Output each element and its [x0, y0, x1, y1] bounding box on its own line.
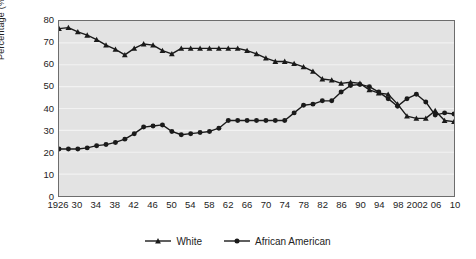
circle-marker-icon [224, 236, 250, 246]
series-african-american [59, 82, 454, 151]
y-axis-tick-labels: 01020304050607080 [28, 0, 54, 259]
y-tick-label: 60 [30, 59, 54, 69]
y-axis-title: Percentage (%) [0, 0, 6, 60]
y-tick-label: 20 [30, 148, 54, 158]
x-axis-tick-labels: 1926303438424650545862667074788286909498… [0, 200, 476, 216]
y-tick-label: 40 [30, 104, 54, 114]
chart-legend: WhiteAfrican American [0, 232, 476, 250]
plot-area [58, 20, 455, 197]
chart-container: Percentage (%) 01020304050607080 1926303… [0, 0, 476, 259]
y-tick-label: 10 [30, 170, 54, 180]
legend-item-white[interactable]: White [145, 236, 202, 247]
legend-item-african-american[interactable]: African American [224, 236, 331, 247]
x-tick-label: 10 [440, 200, 470, 210]
legend-label: White [176, 236, 202, 247]
y-tick-label: 70 [30, 37, 54, 47]
triangle-marker-icon [145, 236, 171, 246]
y-tick-label: 80 [30, 15, 54, 25]
series-white [59, 25, 454, 124]
y-tick-label: 30 [30, 126, 54, 136]
series-lines [59, 21, 454, 196]
y-tick-label: 50 [30, 81, 54, 91]
legend-label: African American [255, 236, 331, 247]
